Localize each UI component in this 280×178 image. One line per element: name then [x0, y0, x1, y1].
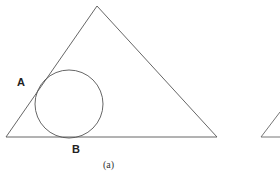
point-label-b: B: [72, 143, 80, 155]
geometry-figure: A B (a): [0, 0, 280, 178]
point-label-a: A: [17, 76, 25, 88]
figure-caption: (a): [103, 159, 114, 171]
partial-second-triangle: [261, 112, 280, 137]
inscribed-circle: [35, 70, 103, 138]
